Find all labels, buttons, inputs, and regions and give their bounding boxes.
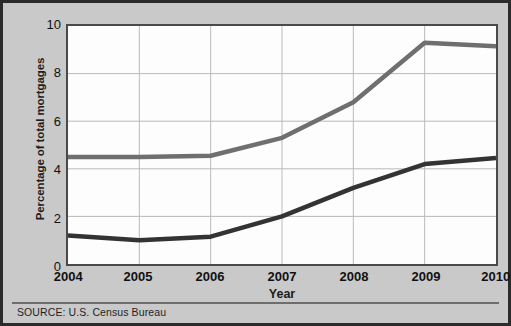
gridlines — [68, 26, 496, 264]
x-tick-label: 2009 — [412, 269, 441, 284]
y-axis-tick-labels: 0246810 — [29, 17, 61, 267]
y-tick-label: 8 — [29, 65, 61, 80]
y-tick-label: 4 — [29, 162, 61, 177]
y-tick-label: 6 — [29, 113, 61, 128]
y-tick-label: 2 — [29, 210, 61, 225]
x-tick-label: 2010 — [481, 269, 510, 284]
x-axis-title: Year — [66, 287, 498, 301]
x-tick-label: 2007 — [268, 269, 297, 284]
x-tick-label: 2008 — [340, 269, 369, 284]
y-tick-label: 10 — [29, 17, 61, 32]
x-tick-label: 2005 — [124, 269, 153, 284]
x-tick-label: 2006 — [196, 269, 225, 284]
chart-canvas — [68, 26, 496, 264]
x-tick-label: 2004 — [54, 269, 83, 284]
chart-figure: Percentage of total mortgages 0246810 20… — [0, 0, 511, 326]
plot-area — [66, 24, 498, 266]
x-axis-tick-labels: 2004200520062007200820092010 — [66, 269, 498, 289]
source-divider — [12, 302, 499, 304]
source-note: SOURCE: U.S. Census Bureau — [17, 306, 166, 318]
